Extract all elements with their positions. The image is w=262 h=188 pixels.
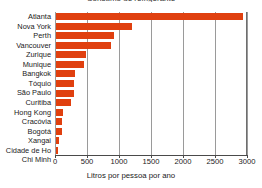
bar-row: [55, 117, 247, 127]
x-axis-tick-label: 3000: [239, 157, 256, 167]
x-axis-tick-mark: [87, 155, 88, 158]
chart-title: Consumo de refrigerante: [0, 0, 262, 2]
bar-row: [55, 98, 247, 108]
bar-row: [55, 79, 247, 89]
x-axis-tick-label: 2000: [175, 157, 192, 167]
y-axis-line: [55, 12, 56, 155]
y-axis-label: Vancouver: [0, 41, 51, 50]
x-axis-tick-label: 1500: [143, 157, 160, 167]
bar: [55, 118, 62, 125]
bar: [55, 23, 132, 30]
bar-row: [55, 12, 247, 22]
bar: [55, 51, 86, 58]
gridline: [247, 12, 248, 155]
bar: [55, 70, 75, 77]
x-axis-tick-mark: [151, 155, 152, 158]
bar-row: [55, 88, 247, 98]
x-axis-tick-mark: [247, 155, 248, 158]
x-axis-tick-label: 0: [53, 157, 57, 167]
y-axis-labels: AtlantaNova YorkPerthVancouverZuriqueMun…: [0, 12, 53, 155]
bar: [55, 90, 74, 97]
y-axis-label: Xangai: [0, 136, 51, 145]
y-axis-label: Cracóvia: [0, 117, 51, 126]
bar: [55, 42, 111, 49]
bar: [55, 13, 243, 20]
bar-row: [55, 69, 247, 79]
y-axis-label: Cidade de Ho: [0, 146, 51, 155]
plot-area: [55, 12, 247, 155]
bar: [55, 109, 63, 116]
x-axis-title: Litros por pessoa por ano: [0, 171, 262, 180]
bar: [55, 128, 62, 135]
bar-row: [55, 41, 247, 51]
bar: [55, 99, 71, 106]
y-axis-label: Atlanta: [0, 12, 51, 21]
bar-row: [55, 50, 247, 60]
y-axis-label: São Paulo: [0, 88, 51, 97]
y-axis-label: Munique: [0, 60, 51, 69]
bar: [55, 61, 84, 68]
x-axis-tick-label: 2500: [207, 157, 224, 167]
bar-row: [55, 60, 247, 70]
x-axis-tick-label: 500: [81, 157, 94, 167]
bar-row: [55, 22, 247, 32]
y-axis-label: Bogotá: [0, 127, 51, 136]
y-axis-label: Perth: [0, 31, 51, 40]
y-axis-label: Hong Kong: [0, 108, 51, 117]
x-axis-tick-label: 1000: [111, 157, 128, 167]
bar-row: [55, 126, 247, 136]
y-axis-label: Zurique: [0, 50, 51, 59]
y-axis-label: Bangkok: [0, 69, 51, 78]
bar-row: [55, 145, 247, 155]
y-axis-label: Curitiba: [0, 98, 51, 107]
bar-row: [55, 31, 247, 41]
bar-row: [55, 107, 247, 117]
x-axis-tick-mark: [215, 155, 216, 158]
bar: [55, 32, 114, 39]
bar-chart: Consumo de refrigerante AtlantaNova York…: [0, 0, 262, 188]
y-axis-label: Tóquio: [0, 79, 51, 88]
y-axis-label: Nova York: [0, 22, 51, 31]
x-axis-tick-mark: [55, 155, 56, 158]
x-axis-tick-mark: [119, 155, 120, 158]
x-axis-tick-labels: 050010001500200025003000: [0, 157, 262, 169]
bar-row: [55, 136, 247, 146]
bar: [55, 80, 74, 87]
x-axis-tick-mark: [183, 155, 184, 158]
